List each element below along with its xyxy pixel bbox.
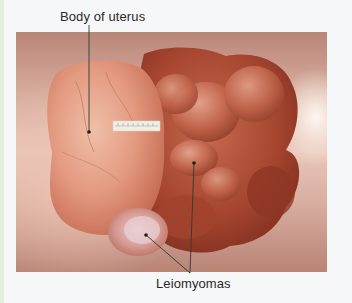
labeled-specimen-figure: Body of uterus Leiomyomas xyxy=(0,0,352,303)
leader-line-leiomyoma-upper xyxy=(190,163,194,273)
pointer-dot-body xyxy=(87,130,91,134)
leader-line-leiomyoma-lower xyxy=(146,235,190,273)
pointer-dot-leiomyoma-upper xyxy=(192,161,196,165)
leader-lines xyxy=(0,0,352,303)
pointer-dot-leiomyoma-lower xyxy=(144,233,148,237)
